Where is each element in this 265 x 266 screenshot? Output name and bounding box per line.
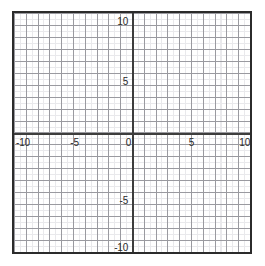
origin-label: 0	[117, 137, 131, 148]
x-tick-label-neg10: -10	[16, 137, 56, 148]
y-tick-label-5: 5	[88, 76, 128, 87]
y-tick-label-10: 10	[88, 16, 128, 27]
x-tick-label-10: 10	[210, 137, 250, 148]
y-axis-line	[132, 13, 134, 252]
y-tick-label-neg10: -10	[88, 242, 128, 252]
x-tick-label-5: 5	[177, 137, 207, 148]
grid-space: 10 5 -5 -10 -10 -5 0 5 10	[14, 13, 250, 252]
plot-area: 10 5 -5 -10 -10 -5 0 5 10	[12, 11, 252, 254]
coordinate-grid-graph: 10 5 -5 -10 -10 -5 0 5 10	[0, 0, 265, 266]
y-tick-label-neg5: -5	[88, 195, 128, 206]
x-tick-label-neg5: -5	[60, 137, 90, 148]
